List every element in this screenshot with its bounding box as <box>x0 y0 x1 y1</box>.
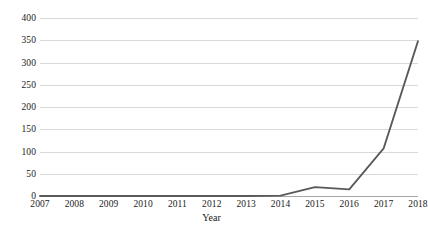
x-tick-label: 2009 <box>99 198 118 210</box>
series-line <box>40 18 418 196</box>
y-tick-label: 200 <box>2 102 36 112</box>
y-tick-label: 50 <box>2 169 36 179</box>
x-tick-label: 2017 <box>374 198 393 210</box>
x-tick-label: 2008 <box>65 198 84 210</box>
x-tick-label: 2015 <box>305 198 324 210</box>
x-axis-title: Year <box>0 212 423 224</box>
x-tick-label: 2018 <box>408 198 427 210</box>
y-tick-label: 150 <box>2 124 36 134</box>
y-tick-label: 350 <box>2 35 36 45</box>
plot-area <box>40 18 418 196</box>
figure-caption <box>0 232 423 237</box>
data-series-line <box>40 41 418 196</box>
y-tick-label: 100 <box>2 147 36 157</box>
x-tick-label: 2007 <box>30 198 49 210</box>
x-tick-label: 2014 <box>271 198 290 210</box>
x-tick-label: 2010 <box>133 198 152 210</box>
y-tick-label: 300 <box>2 58 36 68</box>
x-axis-labels: 2007200820092010201120122013201420152016… <box>40 198 418 212</box>
y-tick-label: 250 <box>2 80 36 90</box>
x-tick-label: 2012 <box>202 198 221 210</box>
y-axis-labels: 050100150200250300350400 <box>0 18 36 196</box>
y-tick-label: 400 <box>2 13 36 23</box>
x-tick-label: 2011 <box>168 198 187 210</box>
x-tick-label: 2013 <box>236 198 255 210</box>
x-tick-label: 2016 <box>340 198 359 210</box>
